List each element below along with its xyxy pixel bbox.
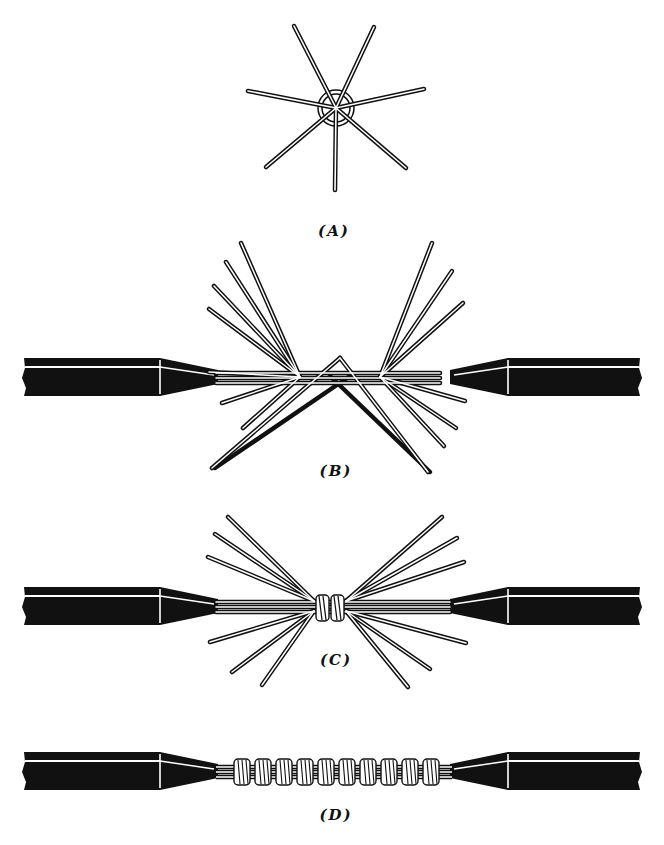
panel-d-label: (D) [319, 806, 352, 824]
panel-a-figure [248, 26, 424, 190]
panel-d-figure [22, 752, 642, 790]
panel-b-label: (B) [320, 462, 353, 480]
splice-diagram [0, 0, 664, 845]
panel-b-figure [22, 243, 642, 472]
panel-c-label: (C) [320, 651, 352, 669]
panel-a-label: (A) [318, 222, 350, 240]
